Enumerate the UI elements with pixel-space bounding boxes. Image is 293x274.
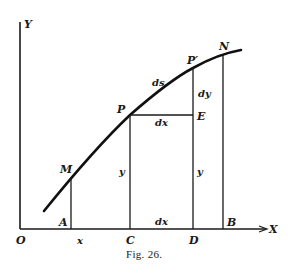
point-P-label: P [116,103,126,116]
point-P-prime-label: P′ [186,54,198,67]
y-right-label: y [196,166,204,177]
point-E-label: E [196,110,206,123]
dx-lower-label: dx [155,216,169,227]
y-axis-label: Y [24,18,33,31]
curve [44,50,241,211]
y-left-label: y [118,166,126,177]
point-B-label: B [226,216,236,229]
x-label: x [76,235,84,246]
point-N-label: N [218,40,230,53]
diagram-canvas: Y X O M P P′ N E A C D B ds dy dx dx x y… [0,0,293,274]
figure-caption: Fig. 26. [126,248,162,260]
dy-label: dy [198,88,212,99]
point-C-label: C [126,234,135,247]
ds-label: ds [152,77,165,88]
origin-label: O [16,234,26,247]
point-A-label: A [58,216,68,229]
point-D-label: D [188,234,199,247]
point-M-label: M [59,163,73,176]
x-axis-label: X [268,223,278,236]
dx-upper-label: dx [155,117,169,128]
